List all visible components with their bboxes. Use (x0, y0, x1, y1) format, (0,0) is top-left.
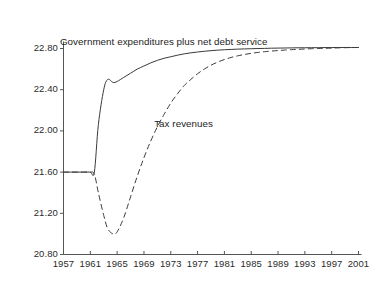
annotation-tax-revenues: Tax revenues (154, 118, 213, 129)
y-tick-label: 21.60 (20, 167, 58, 177)
y-tick-label: 22.80 (20, 43, 58, 53)
x-tick-label: 2001 (343, 259, 375, 269)
series-line-tax-revenues (64, 47, 359, 234)
annotation-government-expenditures: Government expenditures plus net debt se… (60, 36, 268, 47)
series-line-government-expenditures (64, 47, 359, 175)
y-tick-label: 22.00 (20, 125, 58, 135)
y-tick-label: 22.40 (20, 84, 58, 94)
y-tick-label: 21.20 (20, 208, 58, 218)
chart-figure: 20.8021.2021.6022.0022.4022.80 195719611… (0, 0, 377, 292)
series-layer (64, 47, 359, 234)
